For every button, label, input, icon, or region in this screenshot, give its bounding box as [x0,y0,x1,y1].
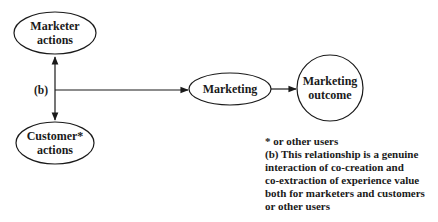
note-line-b-3: co-extraction of experience value [265,174,425,187]
node-customer-actions-line-1: Customer* [27,129,84,143]
node-customer-actions-line-2: actions [37,143,73,157]
node-customer-actions: Customer* actions [16,122,94,164]
note-line-b-5: or other users [265,200,425,213]
diagram-notes: * or other users (b) This relationship i… [265,135,425,213]
note-line-b-4: both for marketers and customers [265,187,425,200]
node-marketing-label: Marketing [203,82,258,96]
node-marketing: Marketing [189,73,271,105]
note-line-footnote: * or other users [265,135,425,148]
note-line-b-1: (b) This relationship is a genuine [265,148,425,161]
node-marketing-outcome-line-1: Marketing [303,74,358,88]
note-line-b-2: interaction of co-creation and [265,161,425,174]
node-marketer-actions-line-1: Marketer [30,19,80,33]
node-marketer-actions: Marketer actions [14,12,96,54]
edge-label-b: (b) [34,84,48,97]
node-marketing-outcome-line-2: outcome [308,88,352,102]
node-marketer-actions-line-2: actions [37,33,73,47]
node-marketing-outcome: Marketing outcome [297,55,363,121]
